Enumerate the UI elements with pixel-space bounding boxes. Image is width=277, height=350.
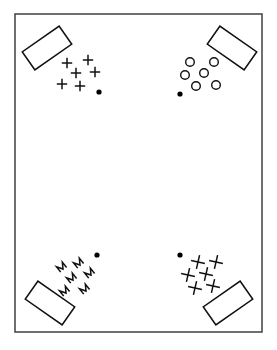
diagram-canvas [0, 0, 277, 350]
figure-root: Four-corner mark clusters with rotated b… [0, 0, 277, 350]
anchor-dot-bottom-right [177, 252, 182, 257]
anchor-dot-top-left [96, 89, 101, 94]
anchor-dot-top-right [177, 91, 182, 96]
page-border [15, 14, 262, 332]
anchor-dot-bottom-left [94, 252, 99, 257]
